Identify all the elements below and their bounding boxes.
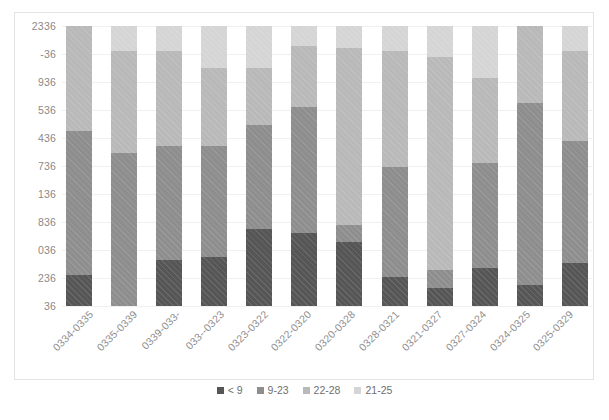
bar-segment[interactable] — [156, 26, 182, 51]
legend-swatch-icon — [257, 387, 264, 394]
legend-label: 9-23 — [268, 384, 289, 396]
bar-segment[interactable] — [472, 163, 498, 268]
legend-label: 22-28 — [314, 384, 341, 396]
bar-segment[interactable] — [382, 167, 408, 276]
bar-segment[interactable] — [517, 285, 543, 306]
x-axis-tick-label: 0335-0339 — [94, 308, 139, 353]
legend-swatch-icon — [303, 387, 310, 394]
bar-column[interactable] — [381, 26, 409, 306]
bar-segment[interactable] — [246, 68, 272, 125]
bar-segment[interactable] — [517, 26, 543, 103]
bar-stack — [291, 26, 317, 306]
legend-swatch-icon — [217, 387, 224, 394]
bar-segment[interactable] — [517, 103, 543, 285]
bar-stack — [336, 26, 362, 306]
bar-segment[interactable] — [201, 257, 227, 306]
legend-item[interactable]: < 9 — [217, 384, 243, 396]
bar-segment[interactable] — [562, 51, 588, 141]
x-axis-tick-label: 0322-0320 — [268, 308, 313, 353]
bar-stack — [201, 26, 227, 306]
bar-segment[interactable] — [291, 26, 317, 46]
bar-segment[interactable] — [562, 141, 588, 263]
bar-segment[interactable] — [111, 26, 137, 51]
y-axis-tick-label: 936 — [38, 76, 56, 88]
bar-segment[interactable] — [472, 268, 498, 306]
legend-item[interactable]: 9-23 — [257, 384, 289, 396]
bar-segment[interactable] — [336, 242, 362, 306]
bar-column[interactable] — [155, 26, 183, 306]
bar-column[interactable] — [200, 26, 228, 306]
bar-column[interactable] — [245, 26, 273, 306]
y-axis-tick-label: 2336 — [32, 20, 56, 32]
bar-segment[interactable] — [336, 48, 362, 224]
y-axis-tick-label: 436 — [38, 132, 56, 144]
y-axis: 2336-3693653643673613683603623636 — [14, 26, 60, 306]
legend-item[interactable]: 22-28 — [303, 384, 341, 396]
bar-segment[interactable] — [382, 51, 408, 167]
bar-segment[interactable] — [111, 153, 137, 306]
x-axis-tick-label: 0323-0322 — [225, 308, 270, 353]
legend-item[interactable]: 21-25 — [354, 384, 392, 396]
bar-stack — [382, 26, 408, 306]
gridline — [62, 306, 592, 307]
bar-column[interactable] — [426, 26, 454, 306]
bar-segment[interactable] — [156, 51, 182, 146]
bar-segment[interactable] — [201, 26, 227, 68]
bar-segment[interactable] — [472, 26, 498, 78]
bar-segment[interactable] — [156, 146, 182, 259]
bar-segment[interactable] — [427, 57, 453, 270]
bar-column[interactable] — [110, 26, 138, 306]
x-axis-tick-label: 033--0323 — [183, 308, 227, 352]
x-axis-tick-label: 0324-0325 — [487, 308, 532, 353]
bar-segment[interactable] — [427, 270, 453, 288]
bar-segment[interactable] — [336, 26, 362, 48]
bar-stack — [111, 26, 137, 306]
bar-segment[interactable] — [382, 26, 408, 51]
bar-column[interactable] — [561, 26, 589, 306]
bar-segment[interactable] — [427, 288, 453, 306]
x-axis-tick-label: 0327-0324 — [443, 308, 488, 353]
bar-segment[interactable] — [291, 46, 317, 108]
bar-segment[interactable] — [291, 107, 317, 233]
y-axis-tick-label: -36 — [40, 48, 56, 60]
bar-segment[interactable] — [201, 146, 227, 257]
x-axis: 0334-03350335-03390339-033-033--03230323… — [62, 308, 592, 374]
y-axis-tick-label: 536 — [38, 104, 56, 116]
bar-segment[interactable] — [66, 26, 92, 131]
x-axis-tick-label: 0321-0327 — [399, 308, 444, 353]
bar-segment[interactable] — [66, 131, 92, 275]
bar-segment[interactable] — [66, 275, 92, 306]
x-axis-tick-label: 0339-033- — [139, 308, 183, 352]
bar-segment[interactable] — [382, 277, 408, 306]
bar-column[interactable] — [335, 26, 363, 306]
bar-segment[interactable] — [562, 263, 588, 306]
bar-column[interactable] — [516, 26, 544, 306]
x-axis-tick-label: 0320-0328 — [312, 308, 357, 353]
bar-segment[interactable] — [246, 229, 272, 306]
bar-segment[interactable] — [291, 233, 317, 306]
y-axis-tick-label: 36 — [44, 300, 56, 312]
y-axis-tick-label: 036 — [38, 244, 56, 256]
legend-swatch-icon — [354, 387, 361, 394]
bar-segment[interactable] — [156, 260, 182, 306]
bar-column[interactable] — [290, 26, 318, 306]
stacked-bar-chart: 2336-3693653643673613683603623636 0334-0… — [0, 0, 609, 420]
bar-stack — [562, 26, 588, 306]
bar-stack — [517, 26, 543, 306]
legend-label: < 9 — [228, 384, 243, 396]
bar-segment[interactable] — [427, 26, 453, 57]
bar-segment[interactable] — [111, 51, 137, 153]
bar-segment[interactable] — [201, 68, 227, 146]
legend-label: 21-25 — [365, 384, 392, 396]
bar-column[interactable] — [471, 26, 499, 306]
bar-segment[interactable] — [336, 225, 362, 242]
bar-segment[interactable] — [246, 26, 272, 68]
chart-plot-area — [62, 26, 592, 306]
bar-segment[interactable] — [472, 78, 498, 163]
y-axis-tick-label: 836 — [38, 216, 56, 228]
bar-segment[interactable] — [562, 26, 588, 51]
bar-column[interactable] — [65, 26, 93, 306]
y-axis-tick-label: 736 — [38, 160, 56, 172]
bar-segment[interactable] — [246, 125, 272, 229]
bar-stack — [66, 26, 92, 306]
